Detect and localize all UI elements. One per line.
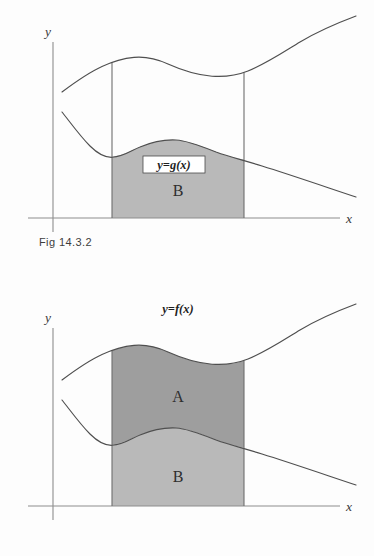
region-label-a-bottom: A bbox=[172, 388, 184, 405]
figure-fig-14-3-2: y=g(x) B y x Fig 14.3.2 bbox=[0, 0, 374, 268]
figure-caption-top: Fig 14.3.2 bbox=[39, 236, 92, 248]
figure-top-svg: y=g(x) B y x bbox=[0, 0, 374, 268]
figure-fig-14-3-3: y=f(x) A B y x Fig 14.3.3 bbox=[0, 278, 374, 556]
curve-label-g: y=g(x) bbox=[155, 158, 191, 172]
x-axis-label-top: x bbox=[345, 211, 352, 226]
y-axis-label-bottom: y bbox=[43, 310, 51, 325]
region-label-b-top: B bbox=[173, 182, 184, 199]
curve-label-f: y=f(x) bbox=[160, 302, 193, 316]
figure-page: y=g(x) B y x Fig 14.3.2 bbox=[0, 0, 374, 556]
region-label-b-bottom: B bbox=[173, 468, 184, 485]
shaded-region-b-top bbox=[112, 140, 244, 218]
y-axis-label-top: y bbox=[43, 24, 51, 39]
curve-upper-top bbox=[62, 16, 356, 92]
figure-bottom-svg: y=f(x) A B y x bbox=[0, 278, 374, 556]
x-axis-label-bottom: x bbox=[345, 499, 352, 514]
